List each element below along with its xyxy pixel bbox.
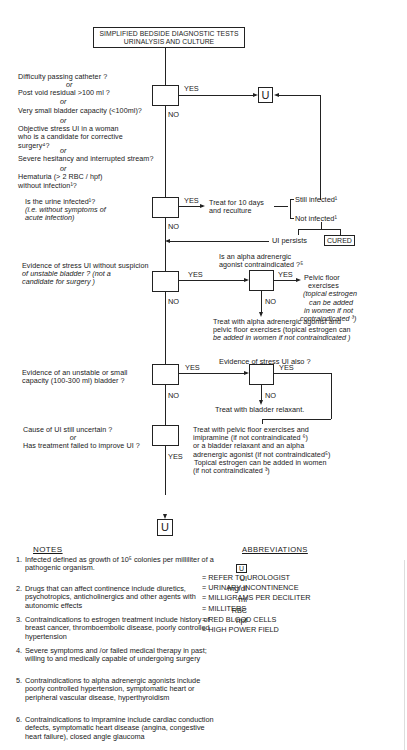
decision4-no-label: NO <box>168 391 179 400</box>
question-hesitancy: Severe hesitancy and interrupted stream? <box>18 155 153 163</box>
title-line-1: SIMPLIFIED BEDSIDE DIAGNOSTIC TESTS <box>94 30 244 38</box>
branch-line <box>274 206 288 207</box>
question-residual: Post void residual >100 ml ? <box>18 89 153 97</box>
decision5-yes-label: YES <box>168 452 183 461</box>
note-text: Contraindications to alpha adrenergic ag… <box>25 676 200 702</box>
treat-reculture: and reculture <box>209 207 264 215</box>
bladder-relaxant-label: Treat with bladder relaxant. <box>215 405 304 414</box>
alpha-question: Is an alpha adrenergic agonist contraind… <box>219 253 303 269</box>
notes-title: NOTES <box>33 545 63 554</box>
alpha-question-2: agonist contraindicated ?⁵ <box>219 261 303 269</box>
decision3-question: Evidence of stress UI without suspicion … <box>22 262 149 287</box>
decision1-yes-line <box>179 95 256 96</box>
alpha-no-line <box>261 291 262 314</box>
decision2-no-label: NO <box>168 222 179 231</box>
page-edge-line <box>404 560 405 750</box>
question-catheter: Difficulty passing catheter ? <box>18 73 153 81</box>
not-infected-fork <box>298 229 340 230</box>
question-capacity: Very small bladder capacity (<100ml)? <box>18 107 153 115</box>
abbreviation-value: = HIGH POWER FIELD <box>202 625 279 634</box>
note-1: 1. Infected defined as growth of 10⁵ col… <box>25 556 220 573</box>
decision1-yes-label: YES <box>184 84 199 93</box>
decision5-box <box>152 425 179 446</box>
decision2-yes-label: YES <box>184 196 199 205</box>
decision2-box <box>152 197 179 218</box>
still-infected-return-line-h <box>277 95 320 96</box>
note-text: Severe symptoms and /or failed medical t… <box>25 646 207 663</box>
arrow-left-icon <box>165 239 170 243</box>
cured-label: CURED <box>327 237 352 244</box>
note-4: 4. Severe symptoms and /or failed medica… <box>25 647 220 664</box>
decision3-yes-label: YES <box>188 270 203 279</box>
branch-not <box>290 218 294 219</box>
note-number: 6. <box>16 716 22 724</box>
question-infected-3: acute infection) <box>25 214 106 222</box>
stress-also-yes-down <box>331 373 332 419</box>
note-5: 5. Contraindications to alpha adrenergic… <box>25 677 220 702</box>
treat-reculture: Treat for 10 days and reculture <box>209 199 264 215</box>
alpha-yes-line <box>274 280 298 281</box>
note-number: 3. <box>16 616 22 624</box>
decision4-box <box>152 364 179 385</box>
question-failed: Has treatment failed to improve UI ? <box>23 442 140 450</box>
note-number: 4. <box>16 647 22 655</box>
alpha-no-label: NO <box>265 297 276 306</box>
alpha-yes-label: YES <box>278 270 293 279</box>
note-text: Drugs that can affect continence include… <box>25 584 196 610</box>
decision4-yes-label: YES <box>185 363 200 372</box>
ui-persists-label: UI persists <box>272 236 307 245</box>
decision4-question: Evidence of an unstable or small capacit… <box>22 369 127 385</box>
note-text: Infected defined as growth of 10⁵ coloni… <box>25 555 214 572</box>
arrow-right-icon <box>200 204 205 208</box>
refer-urologist-box-top: U <box>258 87 273 103</box>
decision1-questions: Difficulty passing catheter ? or Post vo… <box>18 73 153 190</box>
note-text: Contraindications to impramine include c… <box>25 715 214 741</box>
note-text: Contraindications to estrogen treatment … <box>25 615 210 641</box>
stress-also-no-label: NO <box>265 391 276 400</box>
note-2: 2. Drugs that can affect continence incl… <box>25 585 220 610</box>
combined-6: (if not contraindicated ³) <box>193 467 330 475</box>
note-6: 6. Contraindications to impramine includ… <box>25 716 220 741</box>
decision1-no-label: NO <box>168 110 179 119</box>
still-infected-return-line-v <box>320 95 321 200</box>
question-stress-line3: candidate for surgery ) <box>22 278 149 286</box>
abbreviations-title: ABBREVIATIONS <box>242 545 308 554</box>
question-hematuria-2: without infection¹? <box>18 182 153 190</box>
pelvic-floor-text: Pelvic floor exercises (topical estrogen… <box>303 274 357 323</box>
abbreviation-key: hpf <box>202 616 247 625</box>
branch-vertical <box>290 199 291 218</box>
decision2-question: Is the urine infected¹? (i.e. without sy… <box>25 198 106 223</box>
title-line-2: URINALYSIS AND CULTURE <box>94 38 244 46</box>
decision3-no-label: NO <box>168 297 179 306</box>
question-uncertain: Cause of UI still uncertain ? <box>23 426 140 434</box>
stress-also-box <box>249 364 274 385</box>
cured-box: CURED <box>324 235 355 246</box>
ui-persists-return-line <box>168 241 269 242</box>
fork-left <box>298 229 299 235</box>
decision3-yes-line <box>179 280 247 281</box>
not-infected-label: Not infected¹ <box>295 214 337 223</box>
stress-also-yes-left <box>262 419 331 420</box>
not-infected-stem <box>321 222 322 229</box>
decision3-box <box>152 271 179 292</box>
stress-also-yes-line <box>274 373 331 374</box>
arrow-right-icon <box>296 278 301 282</box>
refer-urologist-box-bottom: U <box>157 519 173 536</box>
note-number: 2. <box>16 585 22 593</box>
still-infected-label: Still infected¹ <box>295 195 337 204</box>
branch-still <box>290 199 294 200</box>
or-label: or <box>18 98 153 106</box>
note-3: 3. Contraindications to estrogen treatme… <box>25 616 220 641</box>
combined-treatment-text: Treat with pelvic floor exercises and im… <box>193 426 330 475</box>
stress-also-yes-drop <box>262 419 263 424</box>
question-unstable-2: capacity (100-300 ml) bladder ? <box>22 377 127 385</box>
stress-also-yes-label: YES <box>279 363 294 372</box>
decision5-question: Cause of UI still uncertain ? or Has tre… <box>23 426 140 451</box>
decision4-yes-line <box>179 373 247 374</box>
abbreviation-hpf: hpf = HIGH POWER FIELD <box>198 607 279 634</box>
alpha-treatment-text: Treat with alpha adrenergic agonist and … <box>213 318 351 343</box>
alpha-treat-3: be added in women if not contraindicated… <box>213 334 351 342</box>
alpha-decision-box <box>249 270 274 291</box>
note-number: 1. <box>16 556 22 564</box>
title-box: SIMPLIFIED BEDSIDE DIAGNOSTIC TESTS URIN… <box>93 27 245 48</box>
